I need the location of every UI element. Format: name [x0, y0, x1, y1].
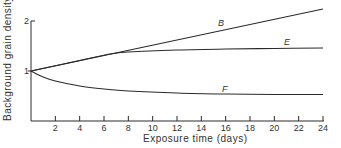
- curve-label-B: B: [218, 18, 224, 28]
- chart: 2 1 24681012141618202224 B E F Exposure …: [0, 0, 341, 148]
- x-tick-label: 16: [221, 123, 231, 133]
- x-axis-title: Exposure time (days): [143, 133, 247, 144]
- y-tick-label-1: 1: [24, 66, 29, 76]
- x-ticks: 24681012141618202224: [53, 116, 328, 133]
- x-tick-label: 10: [148, 123, 158, 133]
- curve-E: [31, 48, 323, 71]
- x-tick-label: 4: [77, 123, 82, 133]
- x-tick-label: 8: [126, 123, 131, 133]
- x-tick-label: 12: [172, 123, 182, 133]
- curve-F: [31, 71, 323, 95]
- x-tick-label: 22: [294, 123, 304, 133]
- x-tick-label: 18: [245, 123, 255, 133]
- x-tick-label: 20: [269, 123, 279, 133]
- curve-label-F: F: [222, 84, 228, 94]
- x-tick-label: 24: [318, 123, 328, 133]
- y-tick-label-2: 2: [24, 16, 29, 26]
- x-tick-label: 6: [101, 123, 106, 133]
- y-axis-title: Background grain density: [2, 0, 13, 121]
- x-tick-label: 2: [53, 123, 58, 133]
- x-tick-label: 14: [196, 123, 206, 133]
- curve-label-E: E: [284, 37, 291, 47]
